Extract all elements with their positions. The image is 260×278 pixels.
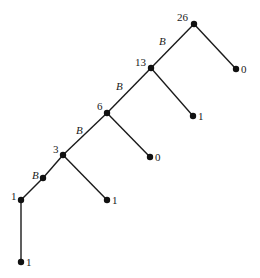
node-26 [191,21,197,27]
leaf-0-top [233,66,239,72]
label-leaf-0-top: 0 [241,64,247,75]
label-node-26: 26 [177,12,188,23]
leaf-1-bottom [18,259,24,265]
tree-diagram: 26 13 6 3 1 0 1 0 1 1 B B B B [0,0,260,278]
leaf-1-upper [190,113,196,119]
edge-label-6-3: B [76,125,83,136]
tree-graphic [0,0,260,278]
edge-13-6 [107,68,151,113]
node-3 [60,152,66,158]
edge-26-0 [194,24,236,69]
label-node-1: 1 [11,191,17,202]
edge-3-mid [43,155,63,178]
label-leaf-1-lower: 1 [112,195,118,206]
label-node-3: 3 [53,144,59,155]
edge-3-1 [63,155,107,200]
node-6 [104,110,110,116]
node-13 [148,65,154,71]
leaf-1-lower [104,197,110,203]
node-mid [40,175,46,181]
edge-mid-1 [21,178,43,200]
edge-label-26-13: B [159,36,166,47]
edge-13-1 [151,68,193,116]
edge-label-3-1: B [32,170,39,181]
edge-label-13-6: B [116,81,123,92]
edge-26-13 [151,24,194,68]
label-node-13: 13 [135,57,146,68]
edge-6-0 [107,113,150,157]
label-leaf-1-upper: 1 [198,111,204,122]
label-leaf-1-bottom: 1 [26,257,32,268]
label-leaf-0-mid: 0 [155,152,161,163]
node-1 [18,197,24,203]
label-node-6: 6 [97,101,103,112]
leaf-0-mid [147,154,153,160]
edge-6-3 [63,113,107,155]
